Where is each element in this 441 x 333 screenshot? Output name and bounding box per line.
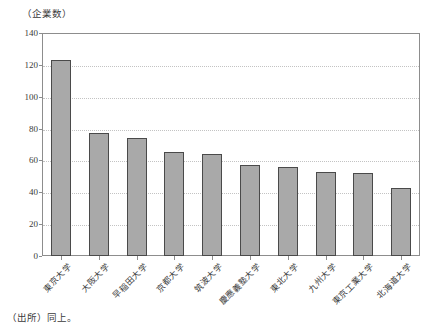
x-axis-category-label-text: 九州大学: [304, 260, 338, 294]
x-axis-category-label-text: 大阪大学: [77, 260, 111, 294]
y-axis-tick-label: 140: [6, 28, 38, 38]
y-axis-tick-label: 120: [6, 60, 38, 70]
x-axis-category-labels: 東京大学大阪大学早稲田大学京都大学筑波大学慶應義塾大学東北大学九州大学東京工業大…: [42, 260, 420, 305]
y-axis-tick-labels: 020406080100120140: [2, 33, 38, 256]
x-axis-category-label-text: 東北大学: [266, 260, 300, 294]
y-axis-tick-label: 100: [6, 92, 38, 102]
y-axis-tick-label: 40: [6, 187, 38, 197]
y-axis-tick-label: 20: [6, 219, 38, 229]
x-axis-category-label-text: 東京大学: [39, 260, 73, 294]
x-axis-category-label-text: 北海道大学: [373, 260, 413, 300]
bar-series: [42, 33, 420, 256]
y-axis-tick-label: 60: [6, 155, 38, 165]
bar: [51, 60, 71, 256]
source-note: （出所）同上。: [7, 310, 77, 324]
bar-chart-figure: （企業数） 020406080100120140 東京大学大阪大学早稲田大学京都…: [0, 0, 441, 333]
y-axis-tick-label: 80: [6, 124, 38, 134]
x-axis-category-label-text: 筑波大学: [191, 260, 225, 294]
y-axis-unit-label: （企業数）: [22, 6, 72, 20]
x-axis-category-label-text: 京都大学: [153, 260, 187, 294]
x-axis-category-label-text: 早稲田大学: [109, 260, 149, 300]
y-axis-tick-label: 0: [6, 251, 38, 261]
